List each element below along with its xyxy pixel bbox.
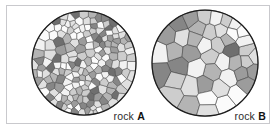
rock-b-label-id: B [258,110,266,122]
crystal-grain [110,47,119,54]
crystal-grain [127,61,136,70]
specimen-rock-a: rock A [19,6,151,125]
crystal-grain [118,51,127,61]
rock-b-label: rock B [234,111,266,122]
crystal-grain [197,105,219,116]
crystal-grain [111,59,119,68]
rock-b-label-prefix: rock [234,110,258,122]
rock-a-label-prefix: rock [113,110,137,122]
rock-a-thin-section [19,6,151,125]
rock-b-thin-section [140,6,272,125]
figure-frame: rock A rock B [6,5,270,124]
rock-comparison-figure: rock A rock B [0,0,278,133]
crystal-grain [105,30,113,35]
specimen-rock-b: rock B [140,6,272,125]
